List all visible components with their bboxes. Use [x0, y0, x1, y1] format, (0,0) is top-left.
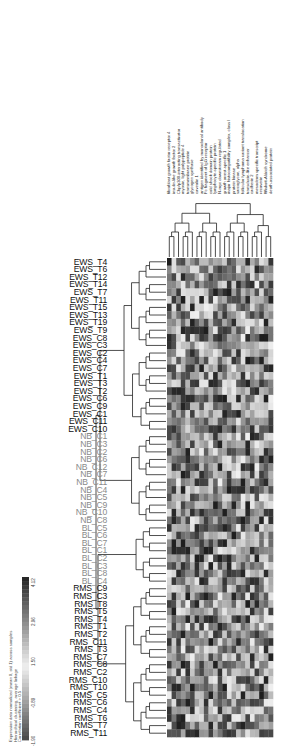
heatmap-cell — [250, 615, 255, 623]
heatmap-cell — [204, 334, 209, 342]
heatmap-cell — [218, 296, 223, 304]
heatmap-cell — [181, 418, 186, 426]
heatmap-cell — [195, 456, 200, 464]
heatmap-cell — [241, 418, 246, 426]
heatmap-cell — [222, 410, 227, 418]
heatmap-cell — [268, 281, 273, 289]
heatmap-cell — [259, 501, 264, 509]
heatmap-cell — [208, 433, 213, 441]
heatmap-cell — [204, 714, 209, 722]
heatmap-cell — [213, 304, 218, 312]
heatmap-cell — [181, 615, 186, 623]
heatmap-cell — [236, 471, 241, 479]
scale-tick: 4.12 — [31, 578, 36, 587]
heatmap-cell — [259, 357, 264, 365]
heatmap-cell — [181, 448, 186, 456]
heatmap-cell — [190, 631, 195, 639]
heatmap-cell — [259, 433, 264, 441]
heatmap-cell — [204, 615, 209, 623]
heatmap-cell — [259, 555, 264, 563]
heatmap-cell — [190, 684, 195, 692]
heatmap-cell — [236, 433, 241, 441]
heatmap-cell — [268, 380, 273, 388]
heatmap-cell — [213, 562, 218, 570]
heatmap-cell — [245, 707, 250, 715]
heatmap-cell — [218, 714, 223, 722]
heatmap-cell — [218, 722, 223, 730]
heatmap-cell — [250, 471, 255, 479]
heatmap-cell — [176, 562, 181, 570]
heatmap-cell — [250, 707, 255, 715]
heatmap-cell — [250, 729, 255, 737]
column-dendrogram — [169, 204, 270, 257]
heatmap-cell — [259, 623, 264, 631]
heatmap-cell — [264, 585, 269, 593]
heatmap-cell — [259, 296, 264, 304]
heatmap-cell — [167, 387, 172, 395]
heatmap-cell — [176, 387, 181, 395]
heatmap-cell — [250, 585, 255, 593]
heatmap-cell — [255, 646, 260, 654]
heatmap-cell — [222, 266, 227, 274]
heatmap-cell — [232, 707, 237, 715]
heatmap-cell — [250, 402, 255, 410]
heatmap-cell — [213, 661, 218, 669]
heatmap-cell — [213, 296, 218, 304]
heatmap-cell — [222, 570, 227, 578]
heatmap-cell — [190, 281, 195, 289]
legend-caption: Correlation coefficient > 0.5 — [17, 691, 22, 742]
heatmap-cell — [176, 501, 181, 509]
heatmap-cell — [227, 402, 232, 410]
heatmap-cell — [208, 456, 213, 464]
heatmap-cell — [190, 304, 195, 312]
heatmap-cell — [190, 273, 195, 281]
heatmap-cell — [245, 372, 250, 380]
heatmap-cell — [232, 615, 237, 623]
heatmap-cell — [195, 372, 200, 380]
heatmap-cell — [264, 684, 269, 692]
heatmap-cell — [236, 653, 241, 661]
heatmap-cell — [190, 402, 195, 410]
heatmap-cell — [255, 638, 260, 646]
heatmap-cell — [172, 296, 177, 304]
heatmap-cell — [227, 646, 232, 654]
heatmap-cell — [245, 600, 250, 608]
heatmap-cell — [218, 653, 223, 661]
heatmap-cell — [268, 539, 273, 547]
heatmap-cell — [181, 387, 186, 395]
heatmap-cell — [236, 638, 241, 646]
heatmap-cell — [268, 342, 273, 350]
heatmap-cell — [172, 585, 177, 593]
heatmap-cell — [185, 304, 190, 312]
heatmap-cell — [218, 623, 223, 631]
heatmap-cell — [227, 273, 232, 281]
heatmap-cell — [190, 691, 195, 699]
heatmap-cell — [255, 714, 260, 722]
heatmap-cell — [176, 410, 181, 418]
heatmap-cell — [245, 577, 250, 585]
scale-tick: -0.89 — [31, 698, 36, 708]
heatmap-cell — [241, 646, 246, 654]
heatmap-cell — [172, 471, 177, 479]
heatmap-cell — [208, 570, 213, 578]
heatmap-cell — [264, 547, 269, 555]
heatmap-cell — [181, 342, 186, 350]
heatmap-cell — [245, 494, 250, 502]
heatmap-cell — [208, 418, 213, 426]
heatmap-cell — [195, 729, 200, 737]
heatmap-cell — [213, 669, 218, 677]
heatmap-cell — [185, 631, 190, 639]
heatmap-cell — [208, 691, 213, 699]
heatmap-cell — [204, 418, 209, 426]
heatmap-cell — [232, 676, 237, 684]
heatmap-cell — [227, 357, 232, 365]
heatmap-cell — [264, 494, 269, 502]
heatmap-cell — [268, 631, 273, 639]
heatmap-cell — [185, 722, 190, 730]
heatmap-grid — [167, 258, 273, 737]
heatmap-cell — [232, 661, 237, 669]
heatmap-cell — [199, 600, 204, 608]
heatmap-cell — [167, 570, 172, 578]
heatmap-cell — [213, 722, 218, 730]
heatmap-cell — [204, 623, 209, 631]
